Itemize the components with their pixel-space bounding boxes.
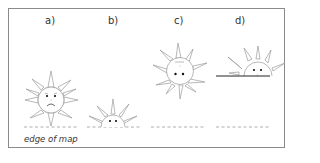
sun-b-icon (89, 99, 137, 127)
sun-c-icon (153, 43, 207, 99)
sun-a-icon (25, 71, 78, 126)
sun-d-icon (228, 46, 285, 76)
edge-of-map-caption: edge of map (24, 134, 78, 144)
